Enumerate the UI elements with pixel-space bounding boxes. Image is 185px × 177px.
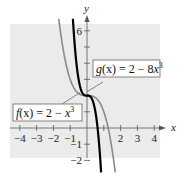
g-label: g(x) = 2 − 8x3 xyxy=(96,61,163,76)
y-tick-label: −2 xyxy=(70,154,82,166)
x-tick-label: 4 xyxy=(151,132,157,144)
x-axis-label: x xyxy=(170,121,176,133)
y-tick-label: 6 xyxy=(77,25,83,37)
function-graph: xy−4−3−2−1234−2−16 g(x) = 2 − 8x3f(x) = … xyxy=(0,0,185,177)
y-axis-arrow-icon xyxy=(85,15,90,22)
x-tick-label: −2 xyxy=(48,132,60,144)
y-tick-label: −1 xyxy=(70,138,82,150)
x-tick-label: −3 xyxy=(31,132,43,144)
x-axis-arrow-icon xyxy=(159,126,166,131)
y-axis-label: y xyxy=(83,2,89,14)
x-tick-label: 3 xyxy=(135,132,141,144)
x-tick-label: −4 xyxy=(14,132,26,144)
x-tick-label: 2 xyxy=(118,132,124,144)
f-label: f(x) = 2 − x3 xyxy=(16,105,74,120)
